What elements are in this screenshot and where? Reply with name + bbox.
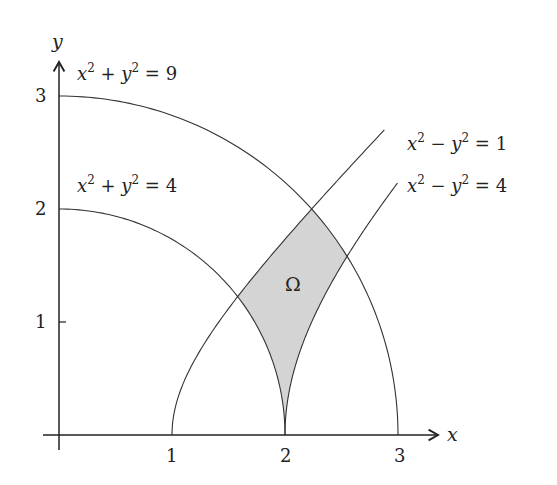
label-circle-r3: x2 + y2 = 9 [77, 61, 177, 84]
x-axis-label: x [447, 423, 458, 445]
x-tick-label-2: 2 [280, 445, 291, 466]
circle-radius-3 [59, 96, 398, 435]
region-omega-label: Ω [285, 273, 301, 295]
circle-radius-2 [59, 209, 285, 435]
y-tick-label-2: 2 [35, 198, 46, 219]
label-hyperbola-1: x2 − y2 = 1 [407, 131, 507, 154]
y-tick-label-3: 3 [35, 85, 46, 106]
y-axis-label: y [51, 30, 63, 52]
y-tick-label-1: 1 [35, 311, 46, 332]
label-hyperbola-4: x2 − y2 = 4 [407, 173, 507, 196]
diagram-canvas: x y 1 2 3 1 2 3 x2 + y2 = 9 x2 + y2 = 4 … [0, 0, 557, 485]
label-circle-r2: x2 + y2 = 4 [77, 173, 177, 196]
x-tick-label-3: 3 [394, 445, 405, 466]
x-tick-label-1: 1 [166, 445, 177, 466]
